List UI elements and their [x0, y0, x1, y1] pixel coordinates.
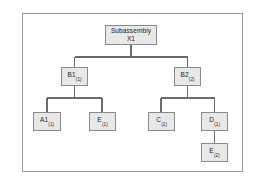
diagram-canvas: Subassembly X1 B1(1) B2(2) A1(1) E(1) C(… [0, 0, 262, 183]
node-label-sub: (2) [189, 77, 195, 82]
node-subassembly-x1[interactable]: Subassembly X1 [105, 25, 157, 45]
node-e1[interactable]: E(1) [89, 112, 116, 131]
node-label-sub: (1) [214, 122, 220, 127]
node-label-main: A1 [40, 116, 48, 123]
node-e2[interactable]: E(2) [201, 143, 228, 162]
node-label-sub: (2) [161, 122, 167, 127]
node-label-sub: (1) [48, 122, 54, 127]
node-d1[interactable]: D(1) [201, 112, 228, 131]
node-label-main: B1 [67, 71, 75, 78]
node-b2[interactable]: B2(2) [174, 67, 201, 86]
node-label-line2: X1 [127, 35, 135, 43]
node-label-main: B2 [180, 71, 188, 78]
node-label-sub: (1) [76, 77, 82, 82]
node-label-sub: (2) [214, 153, 220, 158]
node-b1[interactable]: B1(1) [61, 67, 88, 86]
node-label-line1: Subassembly [111, 27, 151, 35]
node-a1[interactable]: A1(1) [33, 112, 61, 131]
node-c2[interactable]: C(2) [148, 112, 175, 131]
node-label-sub: (1) [102, 122, 108, 127]
